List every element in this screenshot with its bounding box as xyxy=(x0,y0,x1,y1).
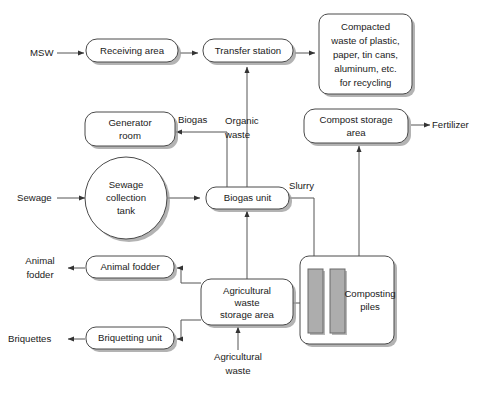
connector-agri-to-briquetting xyxy=(177,320,201,339)
compacted-waste-line-4: aluminum, etc. xyxy=(334,63,396,74)
edge-label-slurry: Slurry xyxy=(289,180,314,191)
connector-biogas-to-generator xyxy=(176,132,227,190)
io-label-animal-fodder-line-2: fodder xyxy=(26,269,54,280)
sewage-tank-line-3: tank xyxy=(117,205,135,216)
compost-pile-2 xyxy=(330,269,345,333)
animal-fodder-label: Animal fodder xyxy=(100,261,160,272)
briquetting-unit-label: Briquetting unit xyxy=(98,332,162,343)
io-label-briquettes: Briquettes xyxy=(8,333,51,344)
compost-pile-1 xyxy=(308,269,323,333)
agri-storage-line-3: storage area xyxy=(220,309,275,320)
generator-room-line-1: Generator xyxy=(108,117,152,128)
node-compacted-waste[interactable]: Compacted waste of plastic, paper, tin c… xyxy=(319,14,415,97)
edge-label-layer: Biogas Organic waste Slurry xyxy=(178,114,314,191)
connector-agri-to-animal-fodder xyxy=(177,268,201,283)
node-briquetting-unit[interactable]: Briquetting unit xyxy=(86,327,177,352)
node-compost-storage-area[interactable]: Compost storage area xyxy=(304,109,411,146)
io-label-animal-fodder-line-1: Animal xyxy=(25,255,54,266)
edge-label-organic-waste-line-1: Organic xyxy=(225,115,259,126)
compacted-waste-line-5: for recycling xyxy=(340,77,392,88)
composting-piles-line-2: piles xyxy=(360,301,380,312)
node-sewage-collection-tank[interactable]: Sewage collection tank xyxy=(85,157,170,242)
io-label-sewage: Sewage xyxy=(17,192,52,203)
edge-label-organic-waste-line-2: waste xyxy=(224,129,250,140)
io-label-agricultural-waste-line-2: waste xyxy=(224,365,250,376)
io-label-fertilizer: Fertilizer xyxy=(432,119,470,130)
edge-label-biogas: Biogas xyxy=(178,114,208,125)
node-animal-fodder-unit[interactable]: Animal fodder xyxy=(86,256,177,281)
connector-slurry-to-composting xyxy=(289,198,314,262)
receiving-area-label: Receiving area xyxy=(100,45,165,56)
node-biogas-unit[interactable]: Biogas unit xyxy=(206,187,292,212)
sewage-tank-line-2: collection xyxy=(106,192,146,203)
compacted-waste-line-1: Compacted xyxy=(341,21,390,32)
node-composting-piles[interactable]: Composting piles xyxy=(300,256,397,347)
io-label-msw: MSW xyxy=(30,47,54,58)
flowchart-canvas: Receiving area Transfer station Compacte… xyxy=(0,0,481,399)
node-agricultural-waste-storage[interactable]: Agricultural waste storage area xyxy=(201,279,296,328)
node-receiving-area[interactable]: Receiving area xyxy=(86,39,181,65)
biogas-unit-label: Biogas unit xyxy=(224,192,272,203)
agri-storage-line-2: waste xyxy=(233,297,259,308)
io-label-agricultural-waste-line-1: Agricultural xyxy=(214,351,262,362)
compost-storage-line-2: area xyxy=(346,127,366,138)
compacted-waste-line-3: paper, tin cans, xyxy=(333,49,398,60)
compacted-waste-line-2: waste of plastic, xyxy=(330,35,399,46)
generator-room-line-2: room xyxy=(119,130,141,141)
sewage-tank-line-1: Sewage xyxy=(109,179,144,190)
transfer-station-label: Transfer station xyxy=(215,45,281,56)
node-generator-room[interactable]: Generator room xyxy=(85,112,178,149)
node-transfer-station[interactable]: Transfer station xyxy=(203,39,296,65)
compost-storage-line-1: Compost storage xyxy=(319,114,392,125)
flowchart-diagram: Receiving area Transfer station Compacte… xyxy=(0,0,481,399)
agri-storage-line-1: Agricultural xyxy=(223,285,271,296)
composting-piles-line-1: Composting xyxy=(344,288,395,299)
